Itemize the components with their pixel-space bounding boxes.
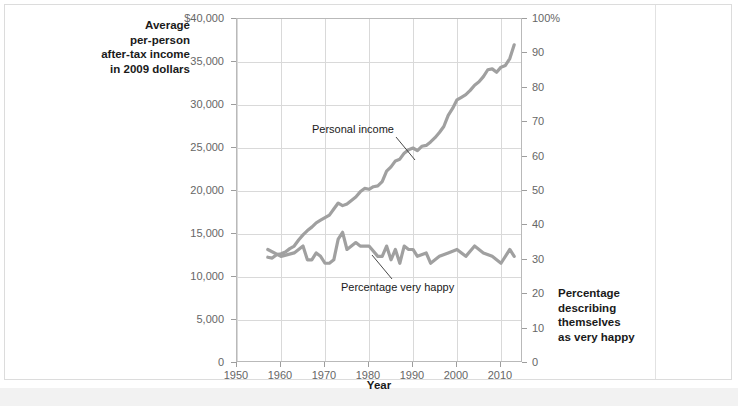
- chart-page: Average per-person after-tax income in 2…: [0, 0, 738, 406]
- leader-line-percentage-very-happy: [372, 255, 392, 279]
- series-label-percentage-very-happy: Percentage very happy: [341, 281, 454, 293]
- annotation-leader-lines: [0, 0, 738, 406]
- leader-line-personal-income: [396, 137, 415, 160]
- x-axis-title: Year: [236, 379, 522, 391]
- series-label-personal-income: Personal income: [312, 123, 394, 135]
